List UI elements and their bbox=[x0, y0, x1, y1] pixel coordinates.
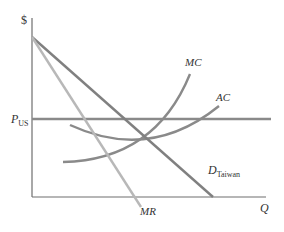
mr-curve bbox=[32, 37, 141, 207]
mc-label: MC bbox=[185, 57, 202, 68]
demand-main: D bbox=[208, 163, 217, 177]
x-axis-label: Q bbox=[260, 202, 269, 214]
price-us-sub: US bbox=[18, 119, 28, 128]
demand-label: DTaiwan bbox=[208, 164, 240, 176]
monopoly-diagram bbox=[0, 0, 284, 232]
price-us-label: PUS bbox=[11, 113, 29, 125]
ac-label: AC bbox=[216, 92, 230, 103]
y-axis-label: $ bbox=[21, 14, 27, 26]
demand-sub: Taiwan bbox=[217, 170, 240, 179]
mr-label: MR bbox=[140, 206, 156, 217]
ac-curve bbox=[70, 106, 219, 140]
